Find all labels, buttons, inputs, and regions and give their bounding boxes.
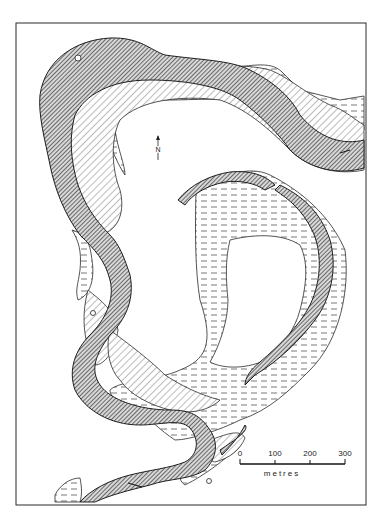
arrow-head-icon (156, 135, 160, 140)
scale-tick-0: 0 (238, 449, 243, 458)
channel-marker-2 (91, 311, 96, 316)
scale-tick-200: 200 (303, 449, 317, 458)
north-arrow: N (155, 135, 160, 160)
scale-bar: 0 100 200 300 metres (238, 449, 352, 478)
scale-unit: metres (264, 469, 300, 478)
scale-tick-100: 100 (268, 449, 282, 458)
north-label: N (155, 146, 160, 153)
river-meander-map: N 0 100 200 300 metres (0, 0, 384, 526)
channel-marker-3 (207, 479, 212, 484)
channel-marker-1 (75, 55, 81, 61)
scale-tick-300: 300 (338, 449, 352, 458)
